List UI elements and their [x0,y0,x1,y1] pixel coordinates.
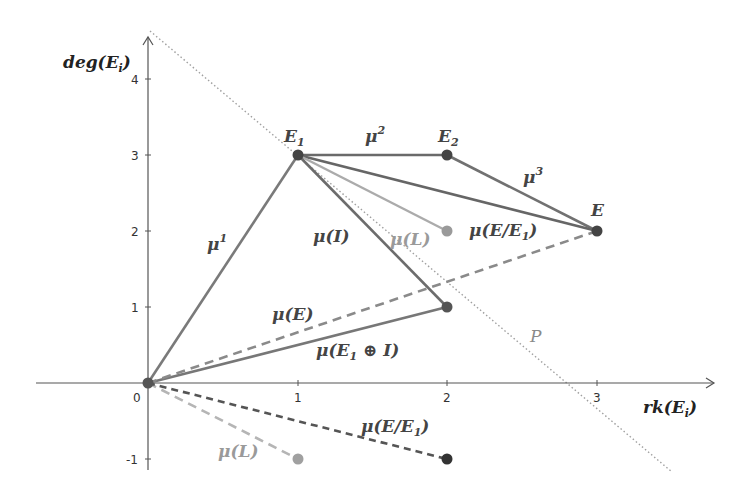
x-axis [36,378,714,388]
label-mu-e-over-e1-top: μ(E/E1) [469,220,537,243]
point-i [442,302,453,313]
x-axis-title: rk(Ei) [643,397,697,420]
segment-mu1 [148,155,298,383]
y-tick-neg1: -1 [126,453,138,467]
x-tick-1: 1 [294,391,302,405]
x-tick-2: 2 [443,391,451,405]
segment-mu-l-top [298,155,447,231]
y-axis-title: deg(Ei) [63,52,131,75]
point-origin [143,378,154,389]
x-tick-0: 0 [133,391,141,405]
x-tick-3: 3 [593,391,601,405]
label-e1: E1 [283,126,305,149]
label-mu3: μ3 [523,165,543,187]
y-tick-4: 4 [131,73,139,87]
label-p: P [529,326,542,346]
label-mu-l-bottom: μ(L) [218,441,258,461]
point-e2 [442,150,453,161]
label-mu-e: μ(E) [272,304,314,324]
slope-diagram: 0 1 2 3 4 3 2 1 -1 deg(Ei) rk(Ei) E1 E2 … [0,0,748,494]
label-mu1: μ1 [207,232,227,254]
label-e: E [590,200,605,220]
point-e1 [293,150,304,161]
point-e [592,226,603,237]
label-mu-e-over-e1-bottom: μ(E/E1) [361,416,429,439]
label-e2: E2 [437,126,459,149]
y-tick-2: 2 [131,225,139,239]
point-l-bottom [293,454,304,465]
line-p [150,31,672,472]
y-tick-1: 1 [131,301,139,315]
point-l-top [442,226,453,237]
y-tick-3: 3 [131,149,139,163]
label-mu-e1-plus-i: μ(E1 ⊕ I) [316,340,399,363]
point-e-over-e1-bottom [442,454,453,465]
label-mu-i: μ(I) [313,226,349,246]
y-axis [143,37,153,470]
segment-mu-e-over-e1 [298,155,597,231]
label-mu2: μ2 [365,124,385,146]
label-mu-l-top: μ(L) [390,229,430,249]
